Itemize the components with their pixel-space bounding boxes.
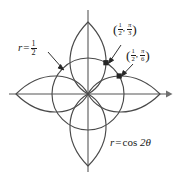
polar-plot-canvas [0,0,179,184]
marked-point-pi-over-6 [117,73,122,78]
label-rose-equals: = [114,136,122,148]
label-point-pi-over-6: (12, π6) [126,48,150,63]
label-pt1-close-paren: ) [132,22,137,37]
label-pt2-close-paren: ) [145,48,150,63]
polar-graph-figure: r=12 r=cos 2θ (12, π3) (12, π6) [0,0,179,184]
marked-point-pi-over-3 [103,60,108,65]
leader-arrowhead-point-pi-over-3 [108,58,113,64]
label-circle-fraction: 12 [31,40,37,58]
label-pt2-comma: , [136,49,138,59]
label-circle-equals: = [22,41,30,53]
label-rose-argument: 2θ [140,136,151,148]
label-rose-function: cos [123,136,138,148]
label-point-pi-over-3: (12, π3) [113,22,137,37]
label-pt1-comma: , [123,23,125,33]
x-axis-arrowhead [166,90,173,97]
label-circle-denominator: 2 [31,48,37,57]
label-circle-equation: r=12 [18,40,37,58]
leader-arrowhead-circle-label [58,65,64,70]
label-circle-numerator: 1 [31,40,37,48]
label-rose-equation: r=cos 2θ [110,137,151,148]
